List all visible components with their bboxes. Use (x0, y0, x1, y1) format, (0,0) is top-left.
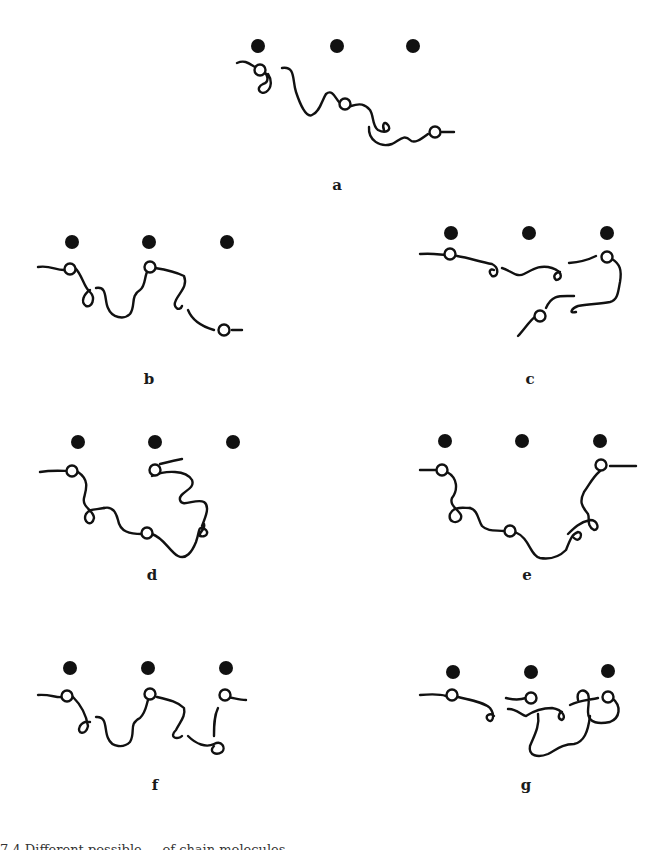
panel-label-a: a (332, 176, 342, 194)
panel-c (420, 249, 621, 337)
panel-label-f: f (152, 776, 158, 794)
adsorbed-segment-icon (340, 99, 351, 110)
panel-label-b: b (144, 370, 155, 388)
chain-strand (282, 68, 340, 116)
caption-text: 7.4 Different possible ... of chain mole… (0, 843, 671, 850)
adsorbed-segment-icon (255, 65, 266, 76)
site-dot-icon (330, 39, 344, 53)
panel-label-d: d (147, 566, 158, 584)
panel-label-c: c (525, 370, 534, 388)
panel-f (38, 689, 246, 754)
adsorbed-segment-icon (430, 127, 441, 138)
panel-label-g: g (521, 776, 532, 794)
panel-d (40, 459, 207, 557)
panel-e (420, 460, 636, 559)
figure-caption: 7.4 Different possible ... of chain mole… (0, 843, 671, 850)
chain-adsorption-diagram (0, 0, 671, 850)
panel-b (38, 262, 242, 336)
chain-strand (237, 62, 271, 93)
panel-g (420, 690, 619, 756)
panel-a (237, 62, 454, 145)
panel-label-e: e (522, 566, 532, 584)
site-dot-icon (406, 39, 420, 53)
site-dot-icon (251, 39, 265, 53)
